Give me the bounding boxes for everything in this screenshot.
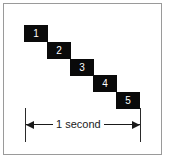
dimension-label: 1 second: [53, 118, 104, 130]
arrow-left-icon: [26, 121, 34, 129]
figure-canvas: 1 2 3 4 5 1 second: [0, 0, 169, 162]
dimension-extension-line-right: [140, 108, 141, 142]
arrow-right-icon: [132, 121, 140, 129]
dimension-group: 1 second: [0, 0, 169, 162]
